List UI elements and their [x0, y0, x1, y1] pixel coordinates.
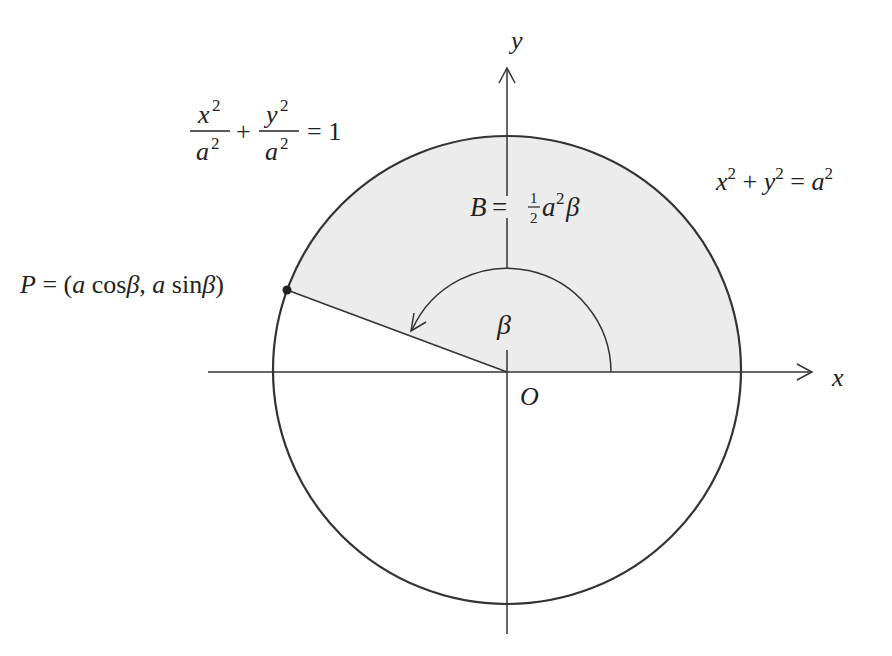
svg-text:2: 2: [280, 96, 289, 115]
angle-label: β: [496, 309, 511, 340]
svg-text:a: a: [542, 192, 556, 222]
svg-text:a: a: [265, 137, 278, 166]
x-axis-label: x: [831, 363, 844, 392]
ellipse-equation: x 2 a 2 + y 2 a 2 = 1: [190, 96, 341, 166]
svg-text:y: y: [263, 100, 278, 129]
svg-text:B: B: [470, 192, 487, 222]
svg-text:2: 2: [211, 134, 220, 153]
svg-text:2: 2: [530, 210, 538, 226]
svg-text:2: 2: [280, 134, 289, 153]
point-p-label: P = (a cosβ, a sinβ): [19, 270, 224, 299]
y-axis-label: y: [508, 26, 523, 55]
svg-text:2: 2: [556, 189, 565, 208]
svg-text:x: x: [197, 100, 210, 129]
svg-text:=: =: [492, 192, 507, 222]
svg-text:+: +: [236, 117, 251, 146]
svg-text:P = (a cosβ, a sinβ): P = (a cosβ, a sinβ): [19, 270, 224, 299]
svg-text:x2 + y2 = a2: x2 + y2 = a2: [715, 164, 833, 196]
point-p: [283, 286, 292, 295]
svg-text:2: 2: [212, 96, 221, 115]
circle-diagram: y x O β x 2 a 2 + y 2 a 2 = 1 x2 + y2 = …: [0, 0, 892, 656]
svg-text:= 1: = 1: [307, 117, 341, 146]
svg-text:1: 1: [530, 190, 538, 206]
svg-text:β: β: [565, 192, 580, 222]
shaded-sector: [287, 136, 741, 372]
circle-equation: x2 + y2 = a2: [715, 164, 833, 196]
origin-label: O: [520, 382, 539, 411]
svg-text:a: a: [196, 137, 209, 166]
